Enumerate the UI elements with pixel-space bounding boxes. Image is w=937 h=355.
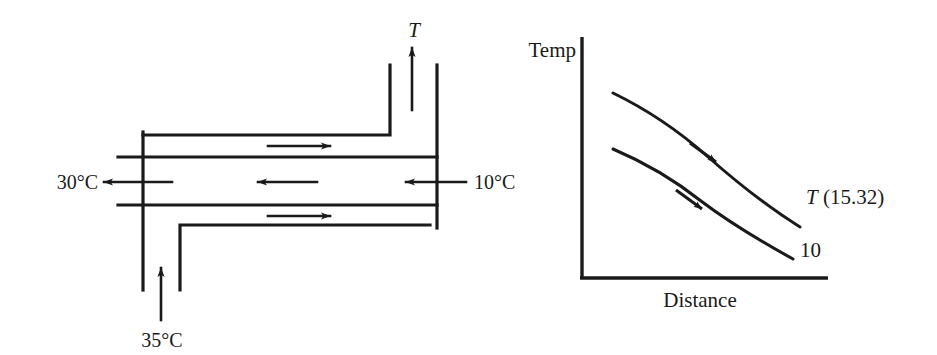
chart-series-label-1: 10 xyxy=(800,240,821,261)
chart-y-axis-label: Temp xyxy=(528,40,576,61)
chart-series-label-0-value: (15.32) xyxy=(818,185,885,209)
inner-tube-upper-wall xyxy=(143,65,390,135)
exchanger-inlet-right-label: 10°C xyxy=(474,172,515,192)
inner-tube-lower-wall xyxy=(180,225,430,290)
temperature-profile-chart xyxy=(580,37,828,278)
figure-root: T 30°C 10°C 35°C Temp Distance T (15.32)… xyxy=(0,0,937,355)
chart-series-label-0-symbol: T xyxy=(806,185,818,209)
exchanger-outlet-top-label: T xyxy=(408,20,420,41)
chart-x-axis-label: Distance xyxy=(663,290,736,311)
heat-exchanger-schematic xyxy=(104,48,466,320)
chart-series-arrow-0 xyxy=(690,143,716,162)
figure-canvas xyxy=(0,0,937,355)
chart-series-label-0: T (15.32) xyxy=(806,187,884,208)
exchanger-inlet-bottom-label: 35°C xyxy=(141,330,182,350)
exchanger-outlet-left-label: 30°C xyxy=(57,172,98,192)
